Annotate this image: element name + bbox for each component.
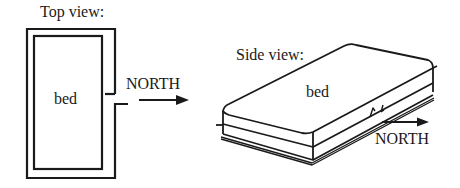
top-view-figure — [27, 29, 128, 178]
side-view-north-label: NORTH — [375, 131, 429, 147]
top-view-north-label: NORTH — [126, 76, 180, 92]
top-view-title: Top view: — [40, 4, 104, 20]
top-view-bed-label: bed — [54, 91, 77, 107]
top-view-north-arrow — [139, 95, 189, 105]
side-view-bed-label: bed — [306, 84, 329, 100]
side-view-title: Side view: — [236, 47, 304, 63]
top-view-outer-wall — [27, 29, 128, 178]
